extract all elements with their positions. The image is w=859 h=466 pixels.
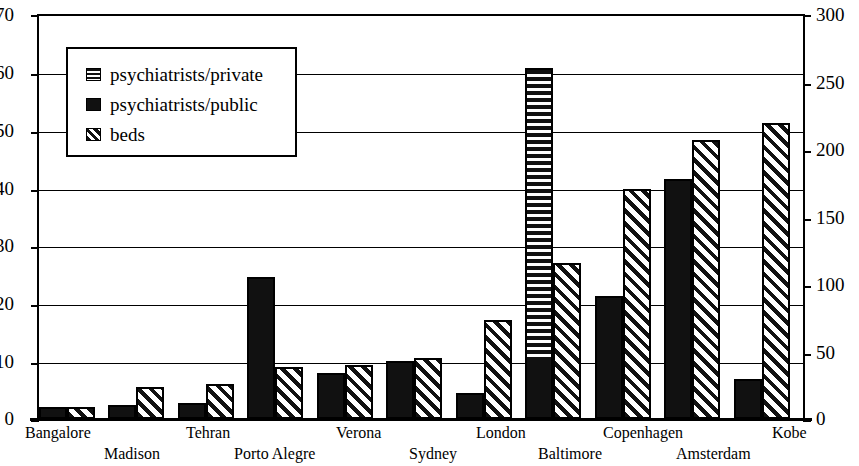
legend-item-private: psychiatrists/private <box>86 59 295 89</box>
psychiatrists-public-segment <box>527 361 551 417</box>
x-label-porto-alegre: Porto Alegre <box>234 445 315 463</box>
beds-bar <box>206 384 234 419</box>
x-label-kobe: Kobe <box>772 424 807 442</box>
right-tick-200 <box>803 151 811 153</box>
horizontal-stripe-swatch-icon <box>86 68 101 81</box>
psychiatrists-public-segment <box>597 298 621 417</box>
beds-bar <box>623 189 651 419</box>
psychiatrists-bar <box>317 373 345 419</box>
beds-bar <box>762 123 790 419</box>
bar-group <box>664 14 733 419</box>
left-axis-label-30: 30 <box>0 236 14 255</box>
left-tick-70 <box>31 15 39 17</box>
left-axis-label-40: 40 <box>0 179 14 198</box>
left-tick-20 <box>31 305 39 307</box>
x-label-baltimore: Baltimore <box>538 445 602 463</box>
right-axis-label-300: 300 <box>816 5 856 24</box>
x-label-madison: Madison <box>104 445 160 463</box>
psychiatrists-bar <box>734 379 762 420</box>
right-axis-label-100: 100 <box>816 275 856 294</box>
right-tick-100 <box>803 286 811 288</box>
left-axis-label-70: 70 <box>0 5 14 24</box>
left-tick-30 <box>31 247 39 249</box>
psychiatrists-bar <box>178 403 206 419</box>
right-tick-250 <box>803 84 811 86</box>
beds-bar <box>136 387 164 419</box>
x-label-sydney: Sydney <box>409 445 457 463</box>
bar-group <box>386 14 455 419</box>
legend-item-public: psychiatrists/public <box>86 89 295 119</box>
x-label-bangalore: Bangalore <box>25 424 91 442</box>
beds-bar <box>67 407 95 419</box>
psychiatrists-bar <box>247 277 275 419</box>
psychiatrists-bar <box>108 405 136 419</box>
psychiatrists-public-segment <box>110 407 134 417</box>
right-tick-150 <box>803 219 811 221</box>
x-label-tehran: Tehran <box>186 424 230 442</box>
chart-legend: psychiatrists/private psychiatrists/publ… <box>66 47 297 157</box>
legend-item-beds: beds <box>86 119 295 149</box>
beds-bar <box>692 140 720 419</box>
left-axis-label-20: 20 <box>0 294 14 313</box>
right-tick-50 <box>803 354 811 356</box>
diagonal-hatch-swatch-icon <box>86 128 101 141</box>
psychiatrists-bar <box>664 179 692 419</box>
psychiatrists-public-segment <box>388 363 412 417</box>
psychiatrists-public-segment <box>458 395 482 417</box>
x-axis-labels: Bangalore Madison Tehran Porto Alegre Ve… <box>0 424 859 466</box>
legend-label-private: psychiatrists/private <box>110 65 263 84</box>
grouped-bar-chart: 70 60 50 40 30 20 10 0 300 250 200 150 1… <box>0 0 859 466</box>
beds-bar <box>414 358 442 419</box>
bar-group <box>525 14 594 419</box>
legend-label-public: psychiatrists/public <box>110 95 258 114</box>
psychiatrists-bar <box>525 68 553 419</box>
left-axis-label-60: 60 <box>0 63 14 82</box>
beds-bar <box>553 263 581 419</box>
x-label-copenhagen: Copenhagen <box>603 424 683 442</box>
psychiatrists-public-segment <box>666 181 690 417</box>
psychiatrists-public-segment <box>180 405 204 417</box>
legend-label-beds: beds <box>110 125 145 144</box>
x-label-amsterdam: Amsterdam <box>676 445 751 463</box>
psychiatrists-public-segment <box>319 375 343 417</box>
left-axis-label-50: 50 <box>0 121 14 140</box>
left-tick-10 <box>31 363 39 365</box>
x-label-london: London <box>476 424 526 442</box>
psychiatrists-bar <box>39 407 67 419</box>
right-axis-label-50: 50 <box>816 343 856 362</box>
psychiatrists-private-segment <box>527 70 551 362</box>
psychiatrists-bar <box>456 393 484 419</box>
left-tick-50 <box>31 132 39 134</box>
left-axis-label-10: 10 <box>0 352 14 371</box>
beds-bar <box>484 320 512 420</box>
right-axis-label-200: 200 <box>816 140 856 159</box>
x-label-verona: Verona <box>336 424 381 442</box>
right-tick-300 <box>803 15 811 17</box>
psychiatrists-public-segment <box>41 409 65 417</box>
bar-group <box>734 14 803 419</box>
left-tick-40 <box>31 190 39 192</box>
psychiatrists-bar <box>386 361 414 419</box>
bar-group <box>595 14 664 419</box>
beds-bar <box>345 365 373 419</box>
right-axis-label-150: 150 <box>816 208 856 227</box>
left-tick-60 <box>31 74 39 76</box>
right-axis-label-250: 250 <box>816 73 856 92</box>
psychiatrists-public-segment <box>736 381 760 418</box>
solid-black-swatch-icon <box>86 98 101 111</box>
psychiatrists-public-segment <box>249 279 273 417</box>
bar-group <box>456 14 525 419</box>
psychiatrists-bar <box>595 296 623 419</box>
beds-bar <box>275 367 303 419</box>
bar-group <box>317 14 386 419</box>
